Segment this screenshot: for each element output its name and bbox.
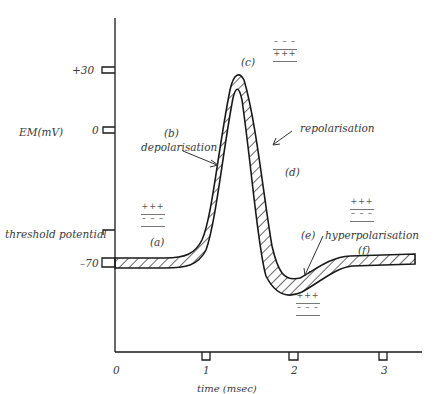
repolarisation-arrow <box>274 131 292 144</box>
charge-recovery: +++ – – – <box>350 198 374 222</box>
charge-recovery-bottom: – – – <box>350 210 374 222</box>
curve-band <box>115 75 415 295</box>
depolarisation-arrow <box>183 151 217 165</box>
x-axis-label: time (msec) <box>197 384 257 394</box>
label-repolarisation: repolarisation <box>300 123 375 134</box>
ytick-zero-label: 0 <box>92 125 99 136</box>
ytick-threshold-label: threshold potential <box>5 229 107 240</box>
label-e: (e) <box>301 230 315 241</box>
label-d: (d) <box>285 167 300 178</box>
label-c: (c) <box>241 57 255 68</box>
ytick-plus30-label: +30 <box>72 65 94 76</box>
label-b: (b) <box>164 128 179 139</box>
xtick-3-mark <box>379 352 387 360</box>
charge-peak: – – – +++ <box>273 38 297 62</box>
charge-resting: +++ – – – <box>141 203 165 227</box>
xtick-1-label: 1 <box>203 365 210 376</box>
label-f: (f) <box>358 245 370 256</box>
ytick-zero-mark <box>103 127 115 133</box>
ytick-minus70-mark <box>102 258 115 267</box>
action-potential-curve <box>115 75 415 295</box>
xtick-3-label: 3 <box>381 365 388 376</box>
charge-peak-bottom: +++ <box>273 50 297 62</box>
y-axis-label: EM(mV) <box>19 127 63 138</box>
xtick-1-mark <box>202 352 210 360</box>
ytick-plus30-mark <box>102 67 115 73</box>
xtick-2-label: 2 <box>291 365 298 376</box>
label-a: (a) <box>150 237 164 248</box>
label-hyperpolarisation: hyperpolarisation <box>325 230 419 241</box>
xtick-0-label: 0 <box>113 365 120 376</box>
ytick-minus70-label: –70 <box>80 258 99 269</box>
charge-resting-bottom: – – – <box>141 215 165 227</box>
charge-hyper-bottom: – – – <box>296 304 320 316</box>
charge-hyperpolarisation: +++ – – – <box>296 292 320 316</box>
label-depolarisation: depolarisation <box>141 142 217 153</box>
xtick-2-mark <box>289 352 298 360</box>
